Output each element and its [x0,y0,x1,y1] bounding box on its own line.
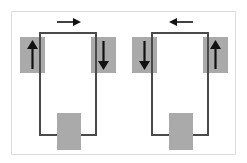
bottom-shaded-block [169,113,193,150]
right-current-loop [123,0,247,163]
arrow-left-icon [168,16,194,28]
arrow-down-icon [138,40,151,70]
left-current-loop [0,0,124,163]
diagram-canvas [0,0,247,163]
arrow-down-icon [97,40,110,70]
arrow-right-icon [56,16,82,28]
bottom-shaded-block [57,113,81,150]
arrow-up-icon [26,40,39,70]
arrow-up-icon [209,40,222,70]
